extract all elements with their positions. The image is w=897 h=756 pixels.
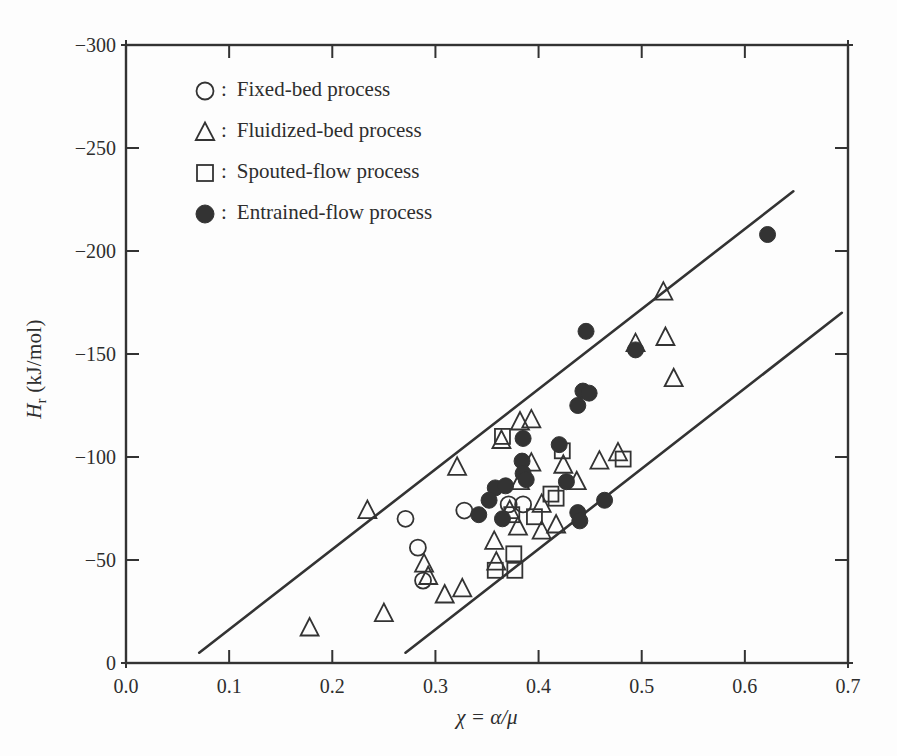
data-point-circle-filled [471, 507, 487, 523]
legend-item-fluidized-bed: : Fluidized-bed process [192, 110, 432, 151]
x-tick-label: 0.5 [629, 675, 654, 697]
data-point-circle-filled [572, 513, 588, 529]
y-tick-label: −150 [75, 343, 116, 365]
legend-label-fixed-bed: Fixed-bed process [237, 77, 390, 102]
data-point-triangle-open [509, 517, 527, 535]
x-tick-label: 0.0 [114, 675, 139, 697]
y-tick-label: −300 [75, 34, 116, 56]
x-tick-label: 0.4 [526, 675, 551, 697]
data-point-triangle-open [375, 604, 393, 622]
data-point-circle-open [456, 503, 472, 519]
y-axis-subscript: r [34, 398, 49, 403]
data-point-circle-filled [515, 430, 531, 446]
data-point-circle-filled [597, 492, 613, 508]
data-point-circle-filled [578, 323, 594, 339]
scatter-chart-figure: 0.00.10.20.30.40.50.60.70−50−100−150−200… [0, 0, 897, 756]
legend: : Fixed-bed process : Fluidized-bed proc… [192, 69, 432, 233]
data-point-triangle-open [358, 501, 376, 519]
data-point-circle-open [410, 540, 426, 556]
data-point-triangle-open [590, 451, 608, 469]
legend-separator: : [221, 200, 227, 225]
data-point-triangle-open [522, 410, 540, 428]
data-point-triangle-open [436, 585, 454, 603]
legend-item-fixed-bed: : Fixed-bed process [192, 69, 432, 110]
data-point-circle-filled [628, 342, 644, 358]
y-tick-label: −50 [85, 549, 116, 571]
legend-separator: : [221, 159, 227, 184]
data-point-circle-filled [481, 492, 497, 508]
legend-label-fluidized-bed: Fluidized-bed process [237, 118, 422, 143]
scatter-plot-canvas: 0.00.10.20.30.40.50.60.70−50−100−150−200… [0, 0, 897, 756]
data-point-circle-filled [581, 385, 597, 401]
data-point-triangle-open [665, 369, 683, 387]
y-axis-variable: H [22, 403, 46, 418]
data-point-circle-filled [558, 474, 574, 490]
legend-separator: : [221, 77, 227, 102]
data-point-triangle-open [448, 457, 466, 475]
y-tick-label: 0 [106, 652, 116, 674]
circle-filled-icon [192, 200, 218, 226]
y-tick-label: −100 [75, 446, 116, 468]
square-open-icon [192, 159, 218, 185]
data-point-square-open [543, 487, 558, 502]
y-axis-unit: (kJ/mol) [22, 319, 46, 393]
data-point-triangle-open [656, 328, 674, 346]
circle-open-icon [192, 77, 218, 103]
data-point-circle-filled [551, 437, 567, 453]
legend-item-spouted-flow: : Spouted-flow process [192, 151, 432, 192]
data-point-circle-filled [498, 478, 514, 494]
triangle-open-icon [192, 118, 218, 144]
x-tick-label: 0.6 [732, 675, 757, 697]
legend-separator: : [221, 118, 227, 143]
y-tick-label: −200 [75, 240, 116, 262]
data-point-circle-filled [760, 227, 776, 243]
legend-label-spouted-flow: Spouted-flow process [237, 159, 420, 184]
legend-item-entrained-flow: : Entrained-flow process [192, 192, 432, 233]
data-point-triangle-open [453, 579, 471, 597]
y-axis-label: Hr (kJ/mol) [22, 319, 50, 419]
y-tick-label: −250 [75, 137, 116, 159]
data-point-circle-filled [570, 398, 586, 414]
data-point-circle-open [398, 511, 414, 527]
legend-label-entrained-flow: Entrained-flow process [237, 200, 432, 225]
x-tick-label: 0.7 [836, 675, 861, 697]
data-point-square-open [506, 546, 521, 561]
data-point-circle-filled [494, 511, 510, 527]
data-point-triangle-open [301, 618, 319, 636]
x-axis-label: χ = α/μ [456, 705, 517, 730]
x-tick-label: 0.3 [423, 675, 448, 697]
data-point-circle-filled [518, 472, 534, 488]
x-tick-label: 0.2 [320, 675, 345, 697]
data-point-triangle-open [485, 531, 503, 549]
data-point-square-open [549, 491, 564, 506]
x-tick-label: 0.1 [217, 675, 242, 697]
boundary-line-lower [406, 313, 842, 653]
